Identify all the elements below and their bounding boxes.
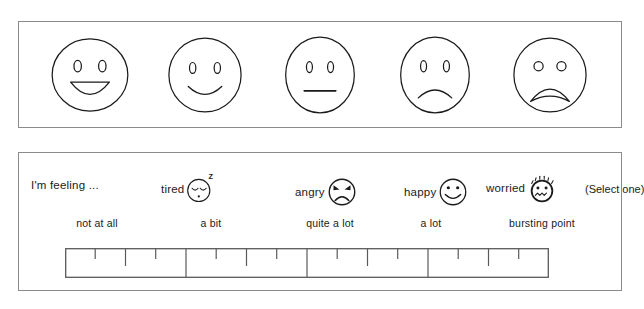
scale-label-a-lot: a lot: [421, 217, 442, 229]
emotion-option-tired[interactable]: tired Z: [161, 172, 218, 206]
feeling-emotion-row: I'm feeling ... tired Z angry: [19, 167, 623, 211]
emotion-label-angry: angry: [295, 186, 325, 198]
emotion-faces-panel: [18, 21, 622, 128]
scale-label-not-at-all: not at all: [76, 217, 118, 229]
face-neutral-icon[interactable]: [276, 31, 364, 119]
happy-face-icon[interactable]: [436, 175, 470, 209]
scale-label-row: not at all a bit quite a lot a lot burst…: [19, 217, 623, 235]
scale-label-quite-a-lot: quite a lot: [306, 217, 354, 229]
face-happy-icon[interactable]: [161, 31, 249, 119]
rating-scale-ruler[interactable]: [65, 248, 549, 278]
feeling-prompt: I'm feeling ...: [31, 179, 99, 191]
face-very-sad-icon[interactable]: [506, 31, 594, 119]
scale-label-a-bit: a bit: [201, 217, 222, 229]
feeling-rating-panel: I'm feeling ... tired Z angry: [18, 152, 622, 291]
tired-face-icon[interactable]: Z: [184, 172, 218, 206]
emotion-label-worried: worried: [486, 182, 525, 194]
emotion-option-worried[interactable]: worried: [486, 171, 559, 205]
emotion-faces-row: [19, 22, 621, 127]
emotion-label-tired: tired: [161, 183, 184, 195]
select-one-note: (Select one): [585, 183, 644, 195]
worried-face-icon[interactable]: [525, 171, 559, 205]
angry-face-icon[interactable]: [325, 175, 359, 209]
face-very-happy-icon[interactable]: [46, 31, 134, 119]
emotion-option-happy[interactable]: happy: [404, 175, 470, 209]
feeling-prompt-text: I'm feeling ...: [31, 179, 99, 191]
face-sad-icon[interactable]: [391, 31, 479, 119]
svg-text:Z: Z: [209, 172, 214, 181]
emotion-option-angry[interactable]: angry: [295, 175, 359, 209]
emotion-label-happy: happy: [404, 186, 436, 198]
scale-label-bursting-point: bursting point: [509, 217, 575, 229]
